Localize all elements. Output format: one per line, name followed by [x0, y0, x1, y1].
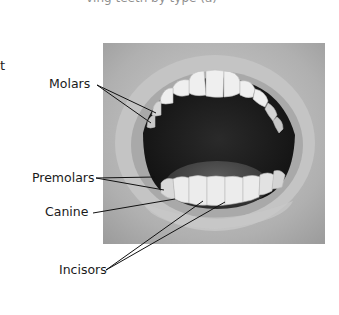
mouth-photo	[103, 43, 325, 244]
label-canine: Canine	[45, 206, 88, 219]
label-molars: Molars	[49, 78, 90, 91]
label-premolars: Premolars	[32, 172, 94, 185]
cut-off-header-text: ving teeth by type (a)	[86, 0, 217, 5]
left-text-fragment: t	[0, 58, 5, 73]
label-incisors: Incisors	[59, 264, 107, 277]
